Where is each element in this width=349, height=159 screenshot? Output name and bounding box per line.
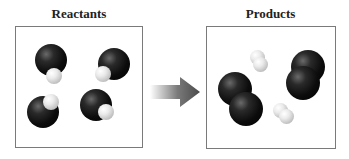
dark-atom	[286, 66, 320, 100]
products-title: Products	[206, 6, 335, 22]
light-atom	[253, 57, 268, 72]
oxygen-atom	[43, 94, 59, 110]
light-atom	[279, 109, 294, 124]
oxygen-atom	[98, 104, 114, 120]
reaction-arrow-icon	[150, 77, 202, 107]
oxygen-atom	[95, 66, 111, 82]
reactants-box	[15, 26, 143, 148]
dark-atom	[229, 92, 263, 126]
oxygen-atom	[46, 68, 62, 84]
reactants-title: Reactants	[15, 6, 143, 22]
